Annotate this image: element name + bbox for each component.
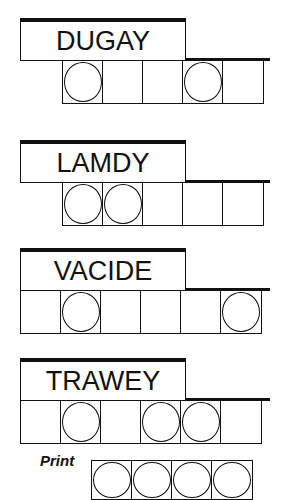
letter-cell[interactable]	[20, 290, 62, 334]
letter-cell[interactable]	[142, 182, 184, 226]
letter-cell[interactable]	[20, 400, 62, 444]
circle-marker-icon	[182, 402, 220, 442]
letter-cell[interactable]	[182, 60, 224, 104]
answer-letter-cells	[20, 400, 262, 444]
letter-cell[interactable]	[102, 60, 144, 104]
letter-cell[interactable]	[60, 290, 102, 334]
circle-marker-icon	[93, 462, 131, 498]
letter-cell[interactable]	[180, 290, 222, 334]
scrambled-word: DUGAY	[20, 18, 186, 61]
scrambled-word: TRAWEY	[20, 358, 186, 401]
circle-marker-icon	[184, 62, 222, 102]
letter-cell[interactable]	[142, 60, 184, 104]
letter-cell[interactable]	[100, 290, 142, 334]
circle-marker-icon	[64, 184, 102, 224]
circle-marker-icon	[213, 462, 251, 498]
letter-cell[interactable]	[140, 290, 182, 334]
scrambled-word: VACIDE	[20, 248, 186, 291]
letter-cell[interactable]	[100, 400, 142, 444]
letter-cell[interactable]	[62, 182, 104, 226]
answer-letter-cells	[62, 182, 264, 226]
answer-letter-cells	[20, 290, 262, 334]
final-answer-cells	[91, 460, 253, 500]
final-answer-cell[interactable]	[131, 460, 173, 500]
letter-cell[interactable]	[220, 400, 262, 444]
final-answer-cell[interactable]	[211, 460, 253, 500]
circle-marker-icon	[142, 402, 180, 442]
letter-cell[interactable]	[140, 400, 182, 444]
answer-letter-cells	[62, 60, 264, 104]
circle-marker-icon	[62, 292, 100, 332]
letter-cell[interactable]	[222, 182, 264, 226]
circle-marker-icon	[64, 62, 102, 102]
letter-cell[interactable]	[182, 182, 224, 226]
circle-marker-icon	[222, 292, 260, 332]
letter-cell[interactable]	[180, 400, 222, 444]
final-answer-cell[interactable]	[171, 460, 213, 500]
print-label: Print	[40, 452, 74, 469]
letter-cell[interactable]	[222, 60, 264, 104]
scrambled-word: LAMDY	[20, 140, 186, 183]
circle-marker-icon	[62, 402, 100, 442]
final-answer-cell[interactable]	[91, 460, 133, 500]
letter-cell[interactable]	[220, 290, 262, 334]
circle-marker-icon	[133, 462, 171, 498]
letter-cell[interactable]	[102, 182, 144, 226]
circle-marker-icon	[104, 184, 142, 224]
circle-marker-icon	[173, 462, 211, 498]
letter-cell[interactable]	[60, 400, 102, 444]
letter-cell[interactable]	[62, 60, 104, 104]
